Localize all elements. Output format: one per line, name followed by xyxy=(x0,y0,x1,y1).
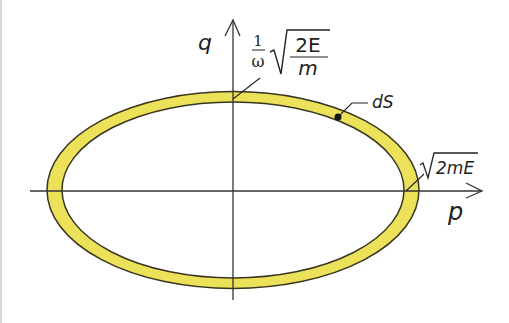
q-axis-label: q xyxy=(198,30,212,55)
svg-text:ω: ω xyxy=(251,52,264,71)
svg-text:2mE: 2mE xyxy=(436,158,474,178)
p-axis-label: p xyxy=(447,198,463,226)
p-intercept-label: 2mE xyxy=(420,153,478,178)
phase-space-diagram: q p 1 ω 2E m 2mE dS xyxy=(0,0,509,323)
svg-text:m: m xyxy=(298,56,317,80)
svg-text:2E: 2E xyxy=(295,33,320,57)
area-element-label: dS xyxy=(372,92,394,112)
q-intercept-label: 1 ω 2E m xyxy=(251,30,330,80)
svg-text:1: 1 xyxy=(253,32,263,50)
